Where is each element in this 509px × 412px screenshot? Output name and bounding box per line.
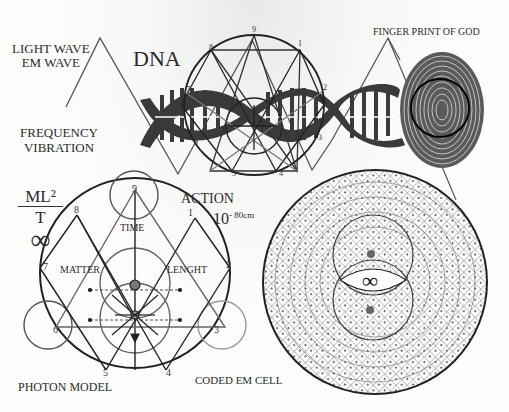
scale-base: 10 xyxy=(213,210,229,227)
svg-text:3: 3 xyxy=(214,324,219,335)
dna-sacred-geometry xyxy=(181,35,324,175)
action-label: ACTION xyxy=(181,192,234,206)
scale-label: 10- 80cm xyxy=(213,211,254,227)
vibration-text: VIBRATION xyxy=(20,141,98,154)
svg-text:9: 9 xyxy=(132,183,137,194)
svg-text:2: 2 xyxy=(323,83,327,92)
light-wave-text: LIGHT WAVE xyxy=(12,42,90,55)
svg-text:6: 6 xyxy=(53,324,58,335)
em-wave-text: EM WAVE xyxy=(12,56,90,69)
length-label: LENGHT xyxy=(167,265,207,275)
svg-text:7: 7 xyxy=(186,85,190,94)
frequency-text: FREQUENCY xyxy=(20,126,98,139)
formula-numerator: ML² xyxy=(18,188,63,207)
svg-text:5: 5 xyxy=(232,169,236,178)
diagram-canvas: 912 345 678 xyxy=(0,0,509,412)
svg-text:7: 7 xyxy=(43,261,48,272)
coded-em-cell-label: CODED EM CELL xyxy=(195,375,282,386)
action-formula: ML² T ∞ xyxy=(18,188,63,254)
svg-text:8: 8 xyxy=(209,43,213,52)
svg-text:2: 2 xyxy=(226,259,231,270)
svg-text:3: 3 xyxy=(318,133,322,142)
svg-text:5: 5 xyxy=(103,367,108,378)
light-wave-label: LIGHT WAVE EM WAVE xyxy=(12,42,90,69)
scale-exponent: - 80cm xyxy=(229,210,254,220)
finger-print-label: FINGER PRINT OF GOD xyxy=(373,27,480,37)
svg-text:6: 6 xyxy=(194,137,198,146)
infinity-symbol: ∞ xyxy=(18,226,63,254)
svg-text:1: 1 xyxy=(188,207,193,218)
svg-text:1: 1 xyxy=(298,39,302,48)
dna-title: DNA xyxy=(133,48,181,70)
svg-text:9: 9 xyxy=(252,25,256,34)
photon-model-label: PHOTON MODEL xyxy=(18,381,112,393)
svg-text:4: 4 xyxy=(166,367,171,378)
svg-text:8: 8 xyxy=(74,204,79,215)
svg-text:4: 4 xyxy=(279,169,283,178)
fingerprint xyxy=(400,52,484,168)
frequency-label: FREQUENCY VIBRATION xyxy=(20,126,98,154)
matter-label: MATTER xyxy=(60,265,100,275)
time-label: TIME xyxy=(120,223,144,233)
cell-infinity-symbol: ∞ xyxy=(362,270,378,292)
